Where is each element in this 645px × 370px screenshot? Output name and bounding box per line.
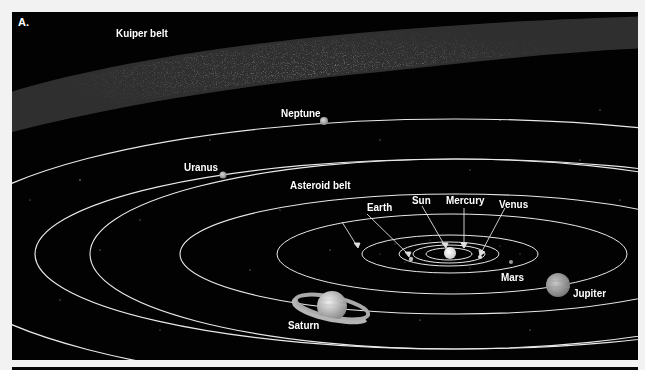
asteroid-belt-label: Asteroid belt xyxy=(290,179,351,191)
jupiter-label: Jupiter xyxy=(573,287,606,299)
mars-icon xyxy=(509,260,513,264)
neptune-label: Neptune xyxy=(281,107,321,119)
mercury-icon xyxy=(462,244,465,247)
jupiter-icon xyxy=(546,273,570,297)
earth-icon xyxy=(409,257,413,261)
mars-label: Mars xyxy=(501,271,524,283)
mercury-label: Mercury xyxy=(446,194,485,206)
kuiper-belt xyxy=(12,12,638,160)
sun-label: Sun xyxy=(412,194,431,206)
solar-system-diagram: A. Kuiper belt Neptune Uranus Asteroid b… xyxy=(12,12,638,360)
venus-icon xyxy=(478,255,482,259)
venus-label: Venus xyxy=(499,198,528,210)
uranus-icon xyxy=(220,172,227,179)
panel-label: A. xyxy=(18,16,29,28)
earth-label: Earth xyxy=(367,201,392,213)
sun-icon xyxy=(444,247,456,259)
uranus-label: Uranus xyxy=(184,161,218,173)
kuiper-belt-label: Kuiper belt xyxy=(116,27,168,39)
saturn-label: Saturn xyxy=(288,319,319,331)
neptune-icon xyxy=(320,117,328,125)
